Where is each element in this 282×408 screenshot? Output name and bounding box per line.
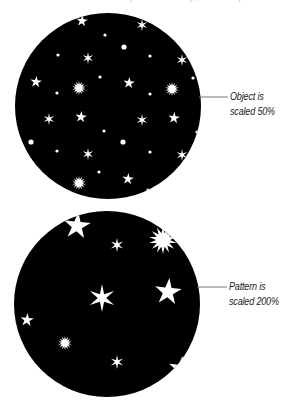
panel-pattern-scaled [14, 211, 227, 397]
caption-line-1: Pattern is [229, 279, 279, 294]
panel-object-scaled [15, 13, 228, 199]
glow-star-icon [121, 44, 126, 49]
dot-star-icon [191, 76, 194, 79]
dot-star-icon [98, 75, 101, 78]
dot-star-icon [146, 188, 149, 191]
caption-line-2: scaled 200% [229, 294, 279, 309]
figure-canvas [0, 0, 282, 408]
dot-star-icon [102, 129, 105, 132]
dot-star-icon [148, 92, 151, 95]
caption-object-scaled: Object is scaled 50% [230, 89, 275, 119]
dot-star-icon [56, 53, 59, 56]
caption-pattern-scaled: Pattern is scaled 200% [229, 279, 279, 309]
glow-star-icon [120, 139, 125, 144]
glow-star-icon [28, 139, 33, 144]
caption-line-1: Object is [230, 89, 275, 104]
dot-star-icon [55, 149, 58, 152]
dot-star-icon [103, 33, 106, 36]
caption-line-2: scaled 50% [230, 104, 275, 119]
dot-star-icon [195, 130, 198, 133]
dot-star-icon [55, 91, 58, 94]
dot-star-icon [148, 150, 151, 153]
dot-star-icon [148, 54, 151, 57]
dot-star-icon [97, 170, 100, 173]
pattern-circle [15, 13, 201, 199]
